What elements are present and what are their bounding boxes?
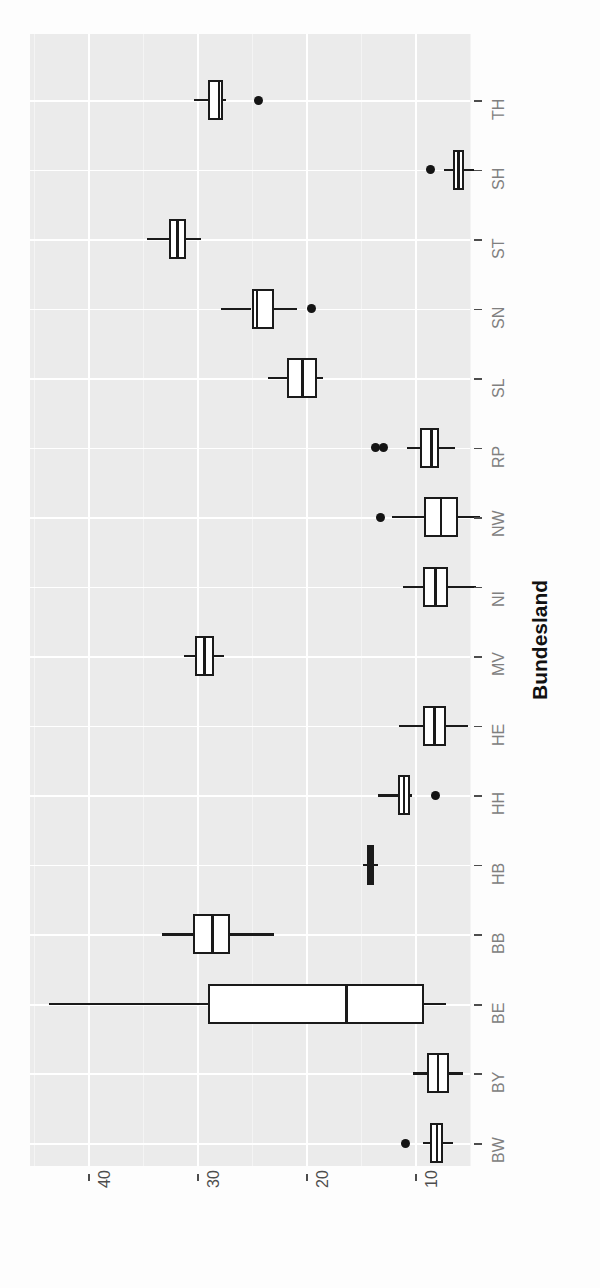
whisker-upper [443, 1142, 453, 1144]
box-iqr [208, 80, 223, 120]
whisker-lower [444, 169, 453, 171]
whisker-upper [410, 794, 412, 796]
category-gridline [30, 656, 470, 658]
outlier-point [307, 304, 316, 313]
median-line [176, 219, 179, 259]
value-gridline [197, 34, 199, 1166]
whisker-upper [449, 1072, 463, 1074]
category-axis-tick-label: HB [490, 863, 508, 885]
outlier-point [376, 513, 385, 522]
category-axis-tick [474, 309, 482, 311]
category-axis-tick [474, 100, 482, 102]
whisker-upper [186, 238, 201, 240]
outlier-point [254, 96, 263, 105]
category-axis-tick-label: MV [490, 652, 508, 676]
category-axis-tick-label: HE [490, 724, 508, 746]
median-line [437, 1053, 440, 1093]
whisker-lower [221, 308, 252, 310]
boxplot-figure: 40302010BWBYBEBBHBHHHEMVNINWRPSLSNSTSHTH… [0, 0, 600, 1288]
category-gridline [30, 1073, 470, 1075]
category-gridline [30, 100, 470, 102]
median-line [403, 775, 406, 815]
category-axis-tick [474, 170, 482, 172]
whisker-lower [162, 933, 193, 935]
category-axis-tick-label: NI [490, 591, 508, 607]
category-axis-tick-label: SN [490, 306, 508, 328]
median-line [218, 80, 221, 120]
category-axis-tick-label: NW [490, 511, 508, 538]
category-axis-tick [474, 1143, 482, 1145]
category-axis-title: Bundesland [528, 580, 552, 700]
whisker-lower [147, 238, 169, 240]
median-line [345, 984, 348, 1024]
whisker-upper [274, 308, 297, 310]
whisker-upper [439, 447, 455, 449]
category-axis-tick-label: BB [490, 933, 508, 954]
whisker-lower [49, 1003, 208, 1005]
category-axis-tick-label: RP [490, 445, 508, 467]
whisker-upper [446, 725, 469, 727]
value-axis-tick-label: 10 [423, 1170, 441, 1188]
median-line [433, 706, 436, 746]
category-gridline [30, 448, 470, 450]
value-axis-tick [88, 1174, 90, 1181]
value-axis-tick-label: 20 [314, 1170, 332, 1188]
whisker-lower [413, 1072, 427, 1074]
category-gridline [30, 170, 470, 172]
category-axis-tick [474, 795, 482, 797]
value-gridline-minor [143, 34, 144, 1166]
category-axis-tick [474, 378, 482, 380]
outlier-point [431, 791, 440, 800]
value-gridline-minor [470, 34, 471, 1166]
category-axis-tick [474, 726, 482, 728]
outlier-point [426, 165, 435, 174]
median-line [203, 636, 206, 676]
category-gridline [30, 378, 470, 380]
category-axis-tick-label: ST [490, 239, 508, 259]
category-axis-tick-label: HH [490, 792, 508, 815]
category-axis-tick [474, 1004, 482, 1006]
whisker-upper [448, 586, 476, 588]
category-axis-tick-label: BW [490, 1137, 508, 1163]
category-axis-tick-label: BY [490, 1072, 508, 1093]
category-axis-tick-label: BE [490, 1003, 508, 1024]
value-axis-tick [306, 1174, 308, 1181]
whisker-lower [184, 655, 195, 657]
whisker-lower [403, 586, 423, 588]
median-line [369, 845, 372, 885]
whisker-upper [223, 99, 226, 101]
whisker-upper [464, 169, 474, 171]
category-gridline [30, 239, 470, 241]
value-gridline [88, 34, 90, 1166]
category-axis-tick [474, 934, 482, 936]
value-gridline-minor [34, 34, 35, 1166]
whisker-lower [392, 516, 424, 518]
median-line [440, 497, 443, 537]
median-line [436, 1123, 439, 1163]
whisker-lower [407, 447, 420, 449]
whisker-upper [424, 1003, 446, 1005]
whisker-upper [317, 377, 324, 379]
category-axis-tick-label: SH [490, 167, 508, 189]
category-axis-tick [474, 239, 482, 241]
whisker-lower [399, 725, 423, 727]
category-axis-tick [474, 587, 482, 589]
whisker-lower [378, 794, 398, 796]
median-line [434, 567, 437, 607]
median-line [301, 358, 304, 398]
whisker-lower [423, 1142, 431, 1144]
value-axis-tick [415, 1174, 417, 1181]
whisker-lower [194, 99, 208, 101]
median-line [211, 914, 214, 954]
median-line [430, 428, 433, 468]
category-axis-tick-label: TH [490, 99, 508, 120]
category-axis-tick [474, 1073, 482, 1075]
median-line [256, 289, 259, 329]
category-axis-tick [474, 656, 482, 658]
value-axis-tick [197, 1174, 199, 1181]
outlier-point [401, 1139, 410, 1148]
box-iqr [208, 984, 424, 1024]
category-axis-tick [474, 865, 482, 867]
category-axis-tick [474, 517, 482, 519]
median-line [457, 150, 460, 190]
